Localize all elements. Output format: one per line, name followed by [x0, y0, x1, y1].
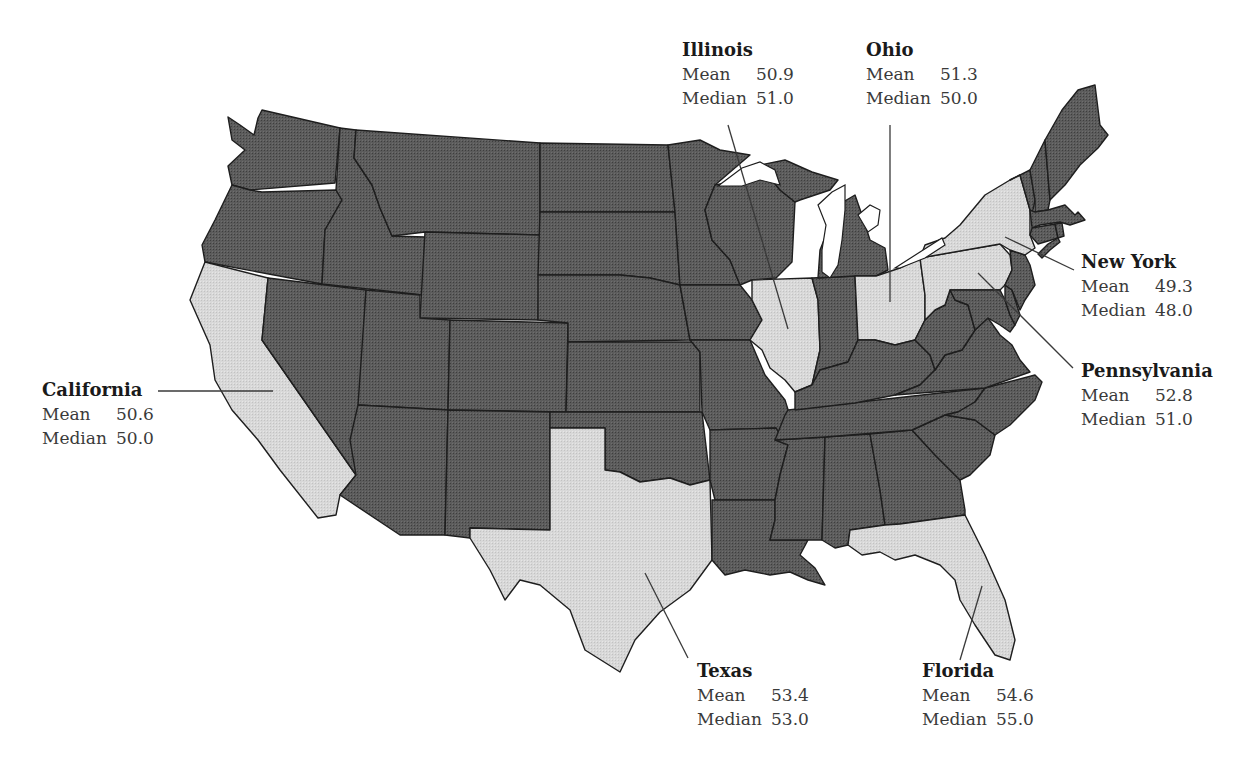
mean-value: 49.3: [1155, 274, 1193, 298]
callout-new-york: New York Mean49.3 Median48.0: [1081, 250, 1193, 322]
median-row: Median50.0: [866, 86, 978, 110]
mean-row: Mean52.8: [1081, 383, 1213, 407]
median-label: Median: [42, 426, 116, 450]
state-north-dakota: [540, 143, 675, 212]
callout-pennsylvania: Pennsylvania Mean52.8 Median51.0: [1081, 359, 1213, 431]
mean-row: Mean50.9: [682, 62, 794, 86]
median-value: 48.0: [1155, 298, 1193, 322]
callout-state-name: Illinois: [682, 38, 794, 62]
median-row: Median50.0: [42, 426, 154, 450]
state-new-mexico: [445, 410, 550, 538]
median-label: Median: [682, 86, 756, 110]
callout-state-name: New York: [1081, 250, 1193, 274]
callout-state-name: California: [42, 378, 154, 402]
mean-row: Mean51.3: [866, 62, 978, 86]
callout-state-name: Ohio: [866, 38, 978, 62]
callout-ohio: Ohio Mean51.3 Median50.0: [866, 38, 978, 110]
median-label: Median: [866, 86, 940, 110]
median-value: 51.0: [1155, 407, 1193, 431]
mean-row: Mean54.6: [922, 683, 1034, 707]
median-value: 50.0: [940, 86, 978, 110]
state-colorado: [448, 320, 568, 412]
mean-label: Mean: [922, 683, 996, 707]
mean-value: 54.6: [996, 683, 1034, 707]
median-label: Median: [1081, 298, 1155, 322]
mean-label: Mean: [1081, 274, 1155, 298]
mean-row: Mean53.4: [697, 683, 809, 707]
state-kansas: [566, 342, 700, 412]
median-row: Median55.0: [922, 707, 1034, 731]
us-map: [0, 0, 1244, 771]
median-row: Median51.0: [1081, 407, 1213, 431]
mean-value: 50.9: [756, 62, 794, 86]
mean-value: 51.3: [940, 62, 978, 86]
state-florida: [848, 515, 1015, 660]
callout-illinois: Illinois Mean50.9 Median51.0: [682, 38, 794, 110]
state-arizona: [340, 405, 448, 535]
median-label: Median: [1081, 407, 1155, 431]
mean-value: 52.8: [1155, 383, 1193, 407]
state-iowa: [680, 285, 762, 340]
callout-texas: Texas Mean53.4 Median53.0: [697, 659, 809, 731]
median-row: Median53.0: [697, 707, 809, 731]
median-value: 55.0: [996, 707, 1034, 731]
median-row: Median48.0: [1081, 298, 1193, 322]
state-washington: [228, 110, 340, 190]
state-south-dakota: [538, 212, 680, 285]
callout-california: California Mean50.6 Median50.0: [42, 378, 154, 450]
state-maine: [1045, 85, 1108, 200]
median-label: Median: [697, 707, 771, 731]
mean-value: 53.4: [771, 683, 809, 707]
median-value: 51.0: [756, 86, 794, 110]
mean-label: Mean: [697, 683, 771, 707]
mean-label: Mean: [682, 62, 756, 86]
callout-state-name: Florida: [922, 659, 1034, 683]
callout-state-name: Texas: [697, 659, 809, 683]
median-value: 53.0: [771, 707, 809, 731]
mean-label: Mean: [42, 402, 116, 426]
mean-row: Mean49.3: [1081, 274, 1193, 298]
mean-label: Mean: [866, 62, 940, 86]
mean-row: Mean50.6: [42, 402, 154, 426]
median-value: 50.0: [116, 426, 154, 450]
median-label: Median: [922, 707, 996, 731]
median-row: Median51.0: [682, 86, 794, 110]
state-wyoming: [420, 232, 540, 320]
callout-florida: Florida Mean54.6 Median55.0: [922, 659, 1034, 731]
mean-label: Mean: [1081, 383, 1155, 407]
mean-value: 50.6: [116, 402, 154, 426]
callout-state-name: Pennsylvania: [1081, 359, 1213, 383]
